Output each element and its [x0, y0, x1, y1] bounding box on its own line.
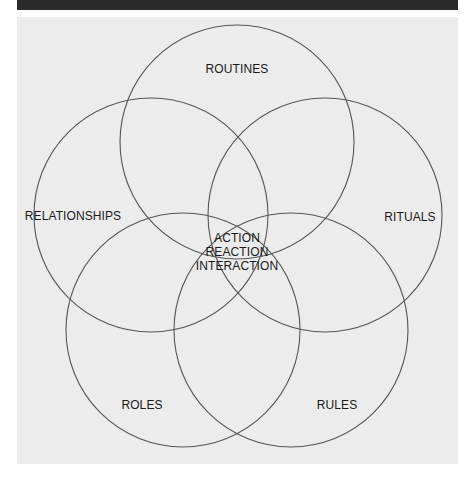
center-line-action: ACTION: [196, 231, 278, 245]
label-roles: ROLES: [121, 398, 162, 412]
label-routines: ROUTINES: [206, 62, 269, 76]
label-rules: RULES: [317, 398, 358, 412]
circle-routines: [120, 25, 354, 259]
label-relationships: RELATIONSHIPS: [25, 209, 121, 223]
center-line-reaction: REACTION: [196, 245, 278, 259]
center-line-interaction: INTERACTION: [196, 259, 278, 273]
center-label: ACTION REACTION INTERACTION: [196, 231, 278, 273]
label-rituals: RITUALS: [384, 210, 435, 224]
